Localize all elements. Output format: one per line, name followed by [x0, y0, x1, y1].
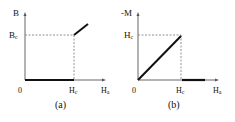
y-axis-arrow-icon [24, 12, 27, 16]
linear-rise-segment [74, 24, 88, 35]
x-tick-label: Hc [176, 86, 185, 95]
origin-label: 0 [18, 86, 22, 95]
x-axis-arrow-icon [102, 79, 106, 82]
diagram-canvas: B Bc 0 Hc Ha (a) -M Hc 0 Hc Ha (b) [0, 0, 235, 122]
panel-b: -M Hc 0 Hc Ha (b) [121, 8, 222, 111]
x-tick-label: Hc [69, 86, 78, 95]
y-axis-label: -M [121, 8, 132, 18]
y-tick-label: Hc [124, 30, 134, 40]
x-axis-label: Ha [101, 86, 110, 95]
x-axis-label: Ha [213, 86, 222, 95]
y-axis-label: B [13, 8, 19, 18]
diagonal-segment [138, 36, 181, 80]
caption-b: (b) [168, 99, 180, 111]
caption-a: (a) [55, 99, 66, 111]
y-tick-label: Bc [9, 30, 18, 40]
origin-label: 0 [132, 86, 136, 95]
x-axis-arrow-icon [215, 79, 219, 82]
y-axis-arrow-icon [137, 12, 140, 16]
panel-a: B Bc 0 Hc Ha (a) [9, 8, 110, 111]
